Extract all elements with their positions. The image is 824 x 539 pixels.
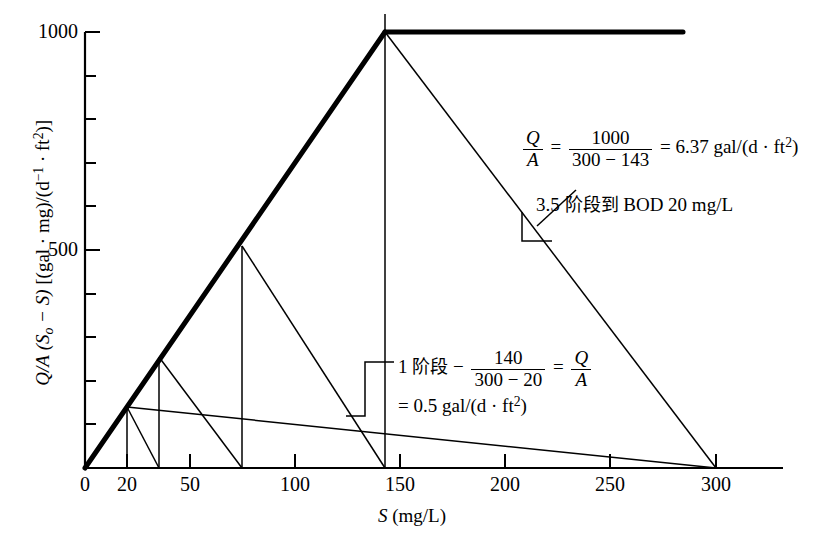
y-axis-term-open: (S: [32, 335, 53, 351]
x-tick-label-20: 20: [107, 473, 147, 496]
annotation-top-value-fraction: 1000 300 − 143: [569, 128, 652, 170]
annotation-bottom-qa-fraction: Q A: [571, 348, 591, 390]
y-axis-units-close: )]: [32, 120, 53, 133]
annotation-top-close-paren: ): [792, 136, 798, 157]
bottom-annotation-leader: [346, 362, 394, 416]
annotation-bottom-equals: =: [553, 356, 564, 377]
stage-line-3: [242, 246, 385, 468]
y-axis-subscript: o: [41, 328, 56, 335]
figure-root: 0 20 50 100 150 200 250 300 1000 500 S (…: [0, 0, 824, 539]
x-tick-label-50: 50: [170, 473, 210, 496]
annotation-top-exponent: 2: [785, 135, 792, 150]
annotation-stage-count-note: 3.5 阶段到 BOD 20 mg/L: [536, 190, 733, 216]
annotation-bottom-numerator: 140: [471, 348, 545, 370]
x-tick-label-150: 150: [375, 473, 425, 496]
annotation-top-a: A: [523, 150, 543, 171]
annotation-top-numerator: 1000: [569, 128, 652, 150]
annotation-stage-cjk: 阶段到: [565, 194, 619, 215]
annotation-singlestage-result: = 0.5 gal/(d · ft2): [398, 394, 527, 417]
x-tick-marks: [127, 454, 716, 468]
y-axis-title: Q/A (So − S) [(gal · mg)/(d−1 · ft2)]: [31, 43, 57, 463]
annotation-bottom-dash: −: [448, 356, 468, 377]
annotation-bottom-cjk: 阶段: [412, 356, 448, 377]
annotation-top-q: Q: [523, 128, 543, 150]
annotation-top-denominator: 300 − 143: [569, 150, 652, 171]
annotation-bottom-q: Q: [571, 348, 591, 370]
annotation-bottom-value-fraction: 140 300 − 20: [471, 348, 545, 390]
y-axis-ratio: Q/A: [32, 355, 53, 386]
x-axis-title-unit: (mg/L): [392, 505, 446, 526]
annotation-bottom-result-text: = 0.5 gal/(d · ft: [398, 395, 514, 416]
annotation-bottom-result-close: ): [521, 395, 527, 416]
x-tick-label-100: 100: [270, 473, 320, 496]
annotation-top-equals-1: =: [550, 136, 561, 157]
y-tick-label-1000: 1000: [12, 20, 78, 43]
x-tick-label-250: 250: [585, 473, 635, 496]
x-tick-label-200: 200: [480, 473, 530, 496]
annotation-singlestage-equation: 1 阶段 − 140 300 − 20 = Q A: [398, 348, 594, 390]
annotation-stage-tail: BOD 20 mg/L: [619, 194, 734, 215]
x-axis-title: S (mg/L): [0, 505, 824, 527]
operating-line-rise: [85, 32, 385, 468]
annotation-bottom-lead: 1: [398, 356, 412, 377]
stage-line-1: [127, 407, 159, 468]
annotation-bottom-result-exponent: 2: [514, 394, 521, 409]
annotation-multistage-equation: Q A = 1000 300 − 143 = 6.37 gal/(d · ft2…: [520, 128, 798, 170]
y-axis-exp-2: 2: [31, 133, 46, 140]
x-tick-label-0: 0: [65, 473, 105, 496]
annotation-bottom-a: A: [571, 370, 591, 391]
x-tick-label-300: 300: [691, 473, 741, 496]
annotation-bottom-denominator: 300 − 20: [471, 370, 545, 391]
y-axis-exp-1: −1: [31, 167, 46, 182]
stage-line-2: [159, 357, 242, 468]
y-axis-units-tail: · ft: [32, 139, 53, 166]
y-axis-minus: − S): [32, 285, 53, 328]
y-tick-marks: [85, 32, 100, 424]
y-axis-units-head: [(gal · mg)/(d: [32, 181, 53, 284]
chart-canvas: [0, 0, 824, 539]
annotation-stage-count: 3.5: [536, 194, 565, 215]
annotation-top-qa-fraction: Q A: [523, 128, 543, 170]
annotation-top-result: = 6.37 gal/(d · ft: [660, 136, 785, 157]
